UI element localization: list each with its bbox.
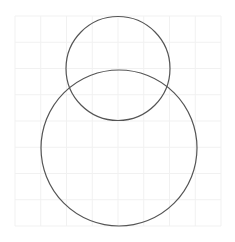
large-circle <box>41 70 197 226</box>
two-circles-diagram <box>0 0 235 242</box>
diagram-canvas <box>0 0 235 242</box>
